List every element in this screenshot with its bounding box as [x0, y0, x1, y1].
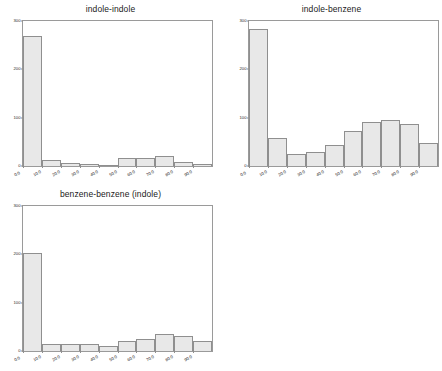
x-axis-tick-label: 60.0 [127, 355, 136, 363]
histogram-bar [193, 341, 212, 351]
x-axis-tick-mark [306, 166, 307, 168]
x-axis-tick-label: 20.0 [52, 355, 61, 363]
histogram-bar [23, 253, 42, 351]
histogram-bar [42, 344, 61, 351]
histogram-bar [400, 124, 419, 166]
y-axis-tick-mark [21, 302, 23, 303]
histogram-bar [155, 334, 174, 351]
x-axis-tick-mark [174, 166, 175, 168]
histogram-bar [80, 344, 99, 351]
x-axis-tick-label: 60.0 [353, 170, 362, 178]
x-axis-tick-mark [193, 351, 194, 353]
histogram-bar [325, 145, 344, 166]
histogram-bar [174, 162, 193, 166]
panel-indole-indole: indole-indole 01002003000.010.020.030.04… [0, 4, 221, 186]
x-axis-tick-mark [325, 166, 326, 168]
x-axis-tick-mark [99, 351, 100, 353]
x-axis-tick-label: 20.0 [278, 170, 287, 178]
x-axis-tick-label: 0.0 [240, 171, 247, 177]
x-axis-tick-label: 0.0 [14, 356, 21, 362]
histogram-bar [419, 143, 438, 166]
x-axis-tick-mark [136, 166, 137, 168]
x-axis-tick-mark [155, 351, 156, 353]
y-axis-tick-mark [21, 206, 23, 207]
x-axis-tick-mark [99, 166, 100, 168]
histogram-bar [23, 36, 42, 166]
x-axis-tick-mark [80, 166, 81, 168]
histogram-bar [118, 341, 137, 351]
x-axis-tick-mark [61, 351, 62, 353]
x-axis-tick-label: 80.0 [391, 170, 400, 178]
y-axis-tick-mark [21, 69, 23, 70]
x-axis-tick-label: 50.0 [108, 170, 117, 178]
histogram-bar [249, 29, 268, 166]
y-axis-tick-mark [21, 117, 23, 118]
x-axis-tick-mark [136, 351, 137, 353]
y-axis-tick-mark [21, 21, 23, 22]
x-axis-tick-mark [381, 166, 382, 168]
y-axis-tick-mark [21, 254, 23, 255]
histogram-bar [61, 163, 80, 166]
x-axis-tick-mark [344, 166, 345, 168]
plot-area: 01002003000.010.020.030.040.050.060.070.… [22, 20, 213, 167]
histogram-bar [99, 346, 118, 351]
histogram-bar [306, 152, 325, 166]
histogram-bar [287, 154, 306, 166]
histogram-bar [193, 164, 212, 166]
x-axis-tick-mark [268, 166, 269, 168]
x-axis-tick-label: 90.0 [184, 355, 193, 363]
histogram-bar [136, 158, 155, 166]
x-axis-tick-label: 30.0 [70, 355, 79, 363]
x-axis-tick-label: 90.0 [184, 170, 193, 178]
x-axis-tick-mark [419, 166, 420, 168]
panel-title: indole-indole [0, 4, 221, 14]
panel-benzene-benzene-indole: benzene-benzene (indole) 01002003000.010… [0, 189, 221, 371]
x-axis-tick-mark [155, 166, 156, 168]
histogram-bar [344, 131, 363, 166]
bar-series [249, 21, 438, 166]
x-axis-tick-mark [287, 166, 288, 168]
x-axis-tick-mark [174, 351, 175, 353]
x-axis-tick-mark [362, 166, 363, 168]
x-axis-tick-mark [23, 166, 24, 168]
y-axis-tick-mark [247, 69, 249, 70]
histogram-bar [80, 164, 99, 166]
plot-area: 01002003000.010.020.030.040.050.060.070.… [22, 205, 213, 352]
x-axis-tick-label: 40.0 [89, 355, 98, 363]
x-axis-tick-label: 70.0 [146, 355, 155, 363]
x-axis-tick-label: 20.0 [52, 170, 61, 178]
x-axis-tick-mark [61, 166, 62, 168]
x-axis-tick-mark [118, 351, 119, 353]
histogram-bar [362, 122, 381, 166]
x-axis-tick-label: 30.0 [296, 170, 305, 178]
plot-area: 01002003000.010.020.030.040.050.060.070.… [248, 20, 439, 167]
histogram-bar [268, 138, 287, 166]
x-axis-tick-mark [42, 166, 43, 168]
histogram-bar [174, 336, 193, 351]
x-axis-tick-label: 50.0 [334, 170, 343, 178]
x-axis-tick-label: 40.0 [315, 170, 324, 178]
x-axis-tick-mark [23, 351, 24, 353]
histogram-bar [118, 158, 137, 166]
histogram-bar [61, 344, 80, 351]
x-axis-tick-label: 10.0 [33, 355, 42, 363]
x-axis-tick-label: 70.0 [372, 170, 381, 178]
x-axis-tick-label: 80.0 [165, 170, 174, 178]
x-axis-tick-label: 10.0 [33, 170, 42, 178]
x-axis-tick-mark [118, 166, 119, 168]
x-axis-tick-label: 0.0 [14, 171, 21, 177]
histogram-bar [42, 160, 61, 166]
x-axis-tick-label: 30.0 [70, 170, 79, 178]
x-axis-tick-label: 40.0 [89, 170, 98, 178]
x-axis-tick-label: 80.0 [165, 355, 174, 363]
x-axis-tick-mark [42, 351, 43, 353]
histogram-bar [381, 120, 400, 166]
panel-title: indole-benzene [221, 4, 442, 14]
panel-title: benzene-benzene (indole) [0, 189, 221, 199]
panel-indole-benzene: indole-benzene 01002003000.010.020.030.0… [221, 4, 442, 186]
x-axis-tick-mark [193, 166, 194, 168]
x-axis-tick-mark [400, 166, 401, 168]
bar-series [23, 206, 212, 351]
histogram-bar [155, 156, 174, 166]
y-axis-tick-mark [247, 117, 249, 118]
